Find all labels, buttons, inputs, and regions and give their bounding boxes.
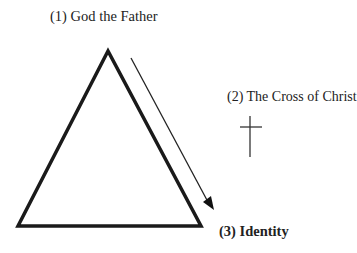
arrow-icon bbox=[131, 58, 214, 210]
cross-icon bbox=[240, 116, 262, 157]
